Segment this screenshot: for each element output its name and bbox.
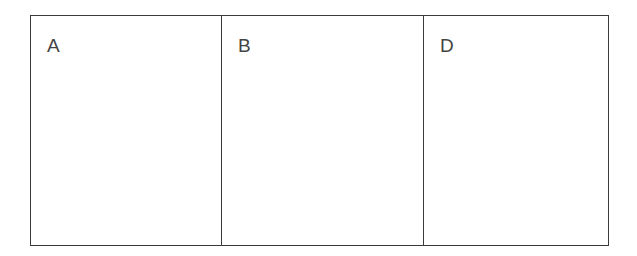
panel-label: D [440,35,454,57]
panel-label: A [47,35,60,57]
panel-a: A [31,16,221,245]
panel-d: D [423,16,608,245]
panel-grid: A B D [30,15,609,246]
panel-b: B [221,16,423,245]
panel-label: B [238,35,251,57]
